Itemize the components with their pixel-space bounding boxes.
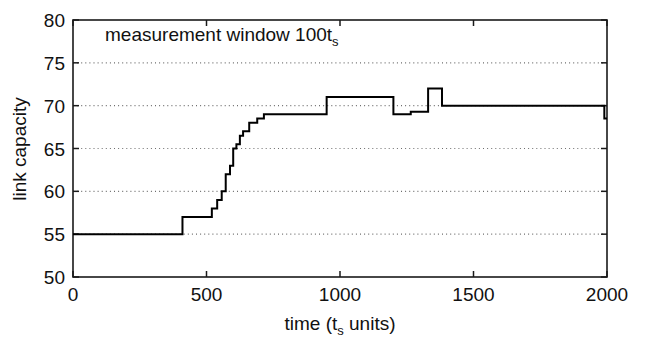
x-tick-label-0: 0 (68, 284, 79, 305)
x-axis-label-tail: units) (344, 313, 396, 334)
annotation-text-subscript: s (332, 34, 339, 49)
annotation-text-main: measurement window 100t (105, 24, 333, 45)
y-tick-label-50: 50 (44, 267, 65, 288)
y-tick-label-55: 55 (44, 224, 65, 245)
x-tick-label-1500: 1500 (452, 284, 494, 305)
x-axis-label-main: time (t (284, 313, 338, 334)
y-tick-label-65: 65 (44, 139, 65, 160)
x-tick-label-1000: 1000 (319, 284, 361, 305)
y-tick-label-75: 75 (44, 53, 65, 74)
y-tick-label-70: 70 (44, 96, 65, 117)
link-capacity-step-chart: 0500100015002000 50556065707580 measurem… (0, 0, 658, 348)
y-tick-label-60: 60 (44, 181, 65, 202)
x-tick-label-500: 500 (191, 284, 223, 305)
x-tick-label-2000: 2000 (586, 284, 628, 305)
y-axis-label: link capacity (9, 97, 30, 201)
chart-figure: 0500100015002000 50556065707580 measurem… (0, 0, 658, 348)
y-tick-label-80: 80 (44, 10, 65, 31)
